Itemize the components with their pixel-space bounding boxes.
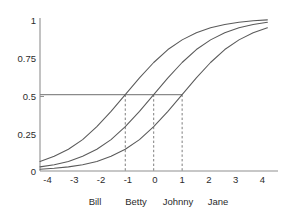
x-tick-label-minus1: -1 (124, 174, 132, 185)
y-tick-label-05: 0.5 (23, 91, 36, 102)
y-tick-label-025: 0.25 (18, 129, 37, 140)
x-axis-ticks: -4 -3 -2 -1 0 1 2 3 4 (43, 174, 265, 185)
chart-container: 1 0.75 0.5 0.25 0 -4 -3 -2 -1 0 (0, 0, 289, 222)
x-tick-label-minus4: -4 (43, 174, 51, 185)
annotation-label-johnny: Johnny (163, 196, 194, 207)
logistic-curve-left (40, 20, 267, 162)
x-tick-label-zero: 0 (152, 174, 157, 185)
logistic-curve-right (40, 28, 267, 169)
x-tick-label-minus3: -3 (70, 174, 78, 185)
x-tick-label-minus2: -2 (97, 174, 105, 185)
annotation-label-betty: Betty (125, 196, 147, 207)
name-annotations-group: Bill Betty Johnny Jane (89, 196, 229, 207)
y-tick-label-075: 0.75 (18, 53, 37, 64)
annotation-label-jane: Jane (208, 196, 229, 207)
y-tick-label-0: 0 (31, 166, 36, 177)
x-tick-label-plus3: 3 (233, 174, 238, 185)
annotation-label-bill: Bill (89, 196, 102, 207)
y-tick-label-1: 1 (31, 15, 36, 26)
drop-lines-group (125, 95, 182, 171)
logistic-curves-chart: 1 0.75 0.5 0.25 0 -4 -3 -2 -1 0 (0, 0, 289, 222)
x-tick-label-plus4: 4 (260, 174, 265, 185)
x-tick-label-plus1: 1 (179, 174, 184, 185)
x-tick-label-plus2: 2 (206, 174, 211, 185)
